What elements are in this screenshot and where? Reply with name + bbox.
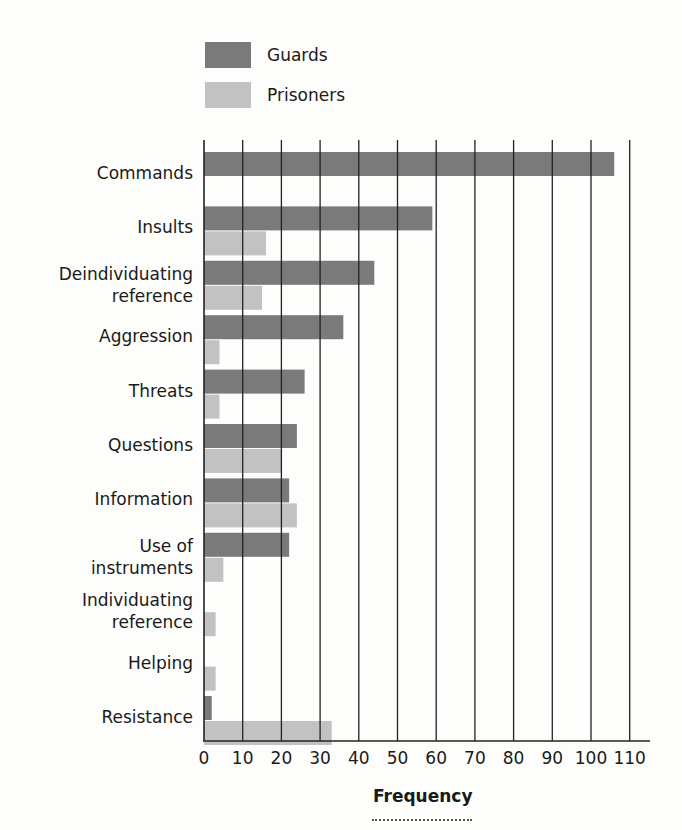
x-tick-label: 90	[541, 748, 563, 768]
bar-prisoners-information	[204, 503, 297, 527]
x-axis-title: Frequency	[373, 786, 473, 806]
category-label: Insults	[137, 216, 193, 238]
bar-guards-information	[204, 478, 289, 502]
bar-prisoners-helping	[204, 667, 216, 691]
x-tick-label: 10	[232, 748, 254, 768]
category-label: Resistance	[101, 706, 193, 728]
category-label: Information	[95, 488, 193, 510]
bar-guards-use-of-instruments	[204, 533, 289, 557]
bar-prisoners-aggression	[204, 340, 219, 364]
category-label: Threats	[129, 380, 193, 402]
x-tick-label: 0	[199, 748, 210, 768]
x-tick-label: 60	[425, 748, 447, 768]
bar-guards-questions	[204, 424, 297, 448]
bar-guards-deindividuating-reference	[204, 261, 374, 285]
bar-prisoners-use-of-instruments	[204, 558, 223, 582]
bar-guards-threats	[204, 370, 305, 394]
category-label: Deindividuatingreference	[59, 263, 193, 307]
x-tick-label: 110	[613, 748, 645, 768]
category-label: Helping	[128, 652, 193, 674]
bar-guards-aggression	[204, 315, 343, 339]
x-tick-label: 80	[503, 748, 525, 768]
bar-prisoners-insults	[204, 231, 266, 255]
category-label: Aggression	[99, 325, 193, 347]
category-label: Use ofinstruments	[91, 535, 193, 579]
x-tick-label: 20	[271, 748, 293, 768]
bar-prisoners-individuating-reference	[204, 612, 216, 636]
bar-prisoners-threats	[204, 395, 219, 419]
bar-prisoners-deindividuating-reference	[204, 286, 262, 310]
x-tick-label: 40	[348, 748, 370, 768]
x-tick-label: 30	[309, 748, 331, 768]
category-label: Questions	[108, 434, 193, 456]
bar-guards-resistance	[204, 696, 212, 720]
category-label: Commands	[97, 162, 193, 184]
x-tick-label: 70	[464, 748, 486, 768]
dotted-underline	[372, 819, 472, 821]
x-tick-label: 50	[387, 748, 409, 768]
bar-chart: CommandsInsultsDeindividuatingreferenceA…	[0, 0, 682, 830]
x-tick-label: 100	[575, 748, 607, 768]
category-label: Individuatingreference	[82, 589, 193, 633]
